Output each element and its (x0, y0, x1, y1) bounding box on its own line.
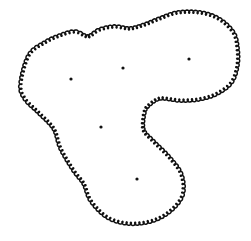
curly-outline (19, 10, 240, 225)
dot-4 (99, 125, 102, 128)
blob-drawing (0, 0, 251, 241)
blob-diagram (0, 0, 251, 241)
dot-5 (135, 177, 138, 180)
dot-3 (187, 57, 190, 60)
dot-2 (121, 66, 124, 69)
dot-1 (69, 77, 72, 80)
